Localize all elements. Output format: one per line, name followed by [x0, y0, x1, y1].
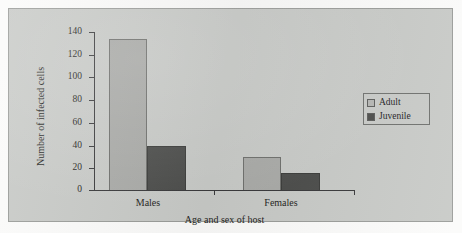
y-tick-label-20: 20 [47, 168, 89, 169]
y-tick-text: 120 [68, 50, 82, 60]
bar-females-juvenile [281, 173, 320, 191]
y-tick-text: 60 [73, 118, 83, 128]
figure-container: 140 120 100 80 60 40 20 0 Numbe [0, 0, 462, 233]
y-tick-text: 140 [68, 27, 82, 37]
legend-label-adult: Adult [379, 98, 401, 108]
bar-males-adult [109, 39, 147, 191]
y-tick-text: 80 [73, 95, 83, 105]
y-tick-mark [89, 32, 94, 33]
y-axis-line [94, 32, 95, 191]
y-tick-mark [89, 77, 94, 78]
x-tick-mark [214, 191, 215, 195]
y-tick-label-120: 120 [47, 55, 89, 56]
y-tick-text: 100 [68, 72, 82, 82]
bar-males-juvenile [147, 146, 186, 191]
y-tick-label-100: 100 [47, 77, 89, 78]
y-tick-label-140: 140 [47, 32, 89, 33]
x-category-label-males: Males [107, 197, 189, 208]
y-tick-mark [89, 55, 94, 56]
legend-label-juvenile: Juvenile [379, 112, 411, 122]
y-tick-label-60: 60 [47, 123, 89, 124]
y-tick-label-80: 80 [47, 100, 89, 101]
legend-swatch-juvenile-icon [367, 113, 375, 121]
x-axis-title: Age and sex of host [94, 214, 355, 225]
y-tick-mark [89, 190, 94, 191]
x-category-label-females: Females [240, 197, 322, 208]
y-axis-title: Number of infected cells [35, 42, 46, 192]
chart-plate: 140 120 100 80 60 40 20 0 Numbe [8, 8, 453, 222]
y-tick-mark [89, 168, 94, 169]
legend-item-adult: Adult [367, 96, 426, 109]
y-tick-mark [89, 146, 94, 147]
y-tick-mark [89, 100, 94, 101]
y-tick-text: 20 [73, 163, 83, 173]
y-tick-text: 0 [77, 185, 82, 195]
y-tick-label-0: 0 [47, 190, 89, 191]
legend-swatch-adult-icon [367, 99, 375, 107]
legend: Adult Juvenile [363, 93, 430, 125]
y-tick-text: 40 [73, 141, 83, 151]
y-tick-label-40: 40 [47, 146, 89, 147]
x-tick-mark [354, 191, 355, 195]
x-axis-line [94, 190, 355, 191]
bar-females-adult [243, 157, 281, 191]
y-tick-mark [89, 123, 94, 124]
legend-item-juvenile: Juvenile [367, 110, 426, 123]
